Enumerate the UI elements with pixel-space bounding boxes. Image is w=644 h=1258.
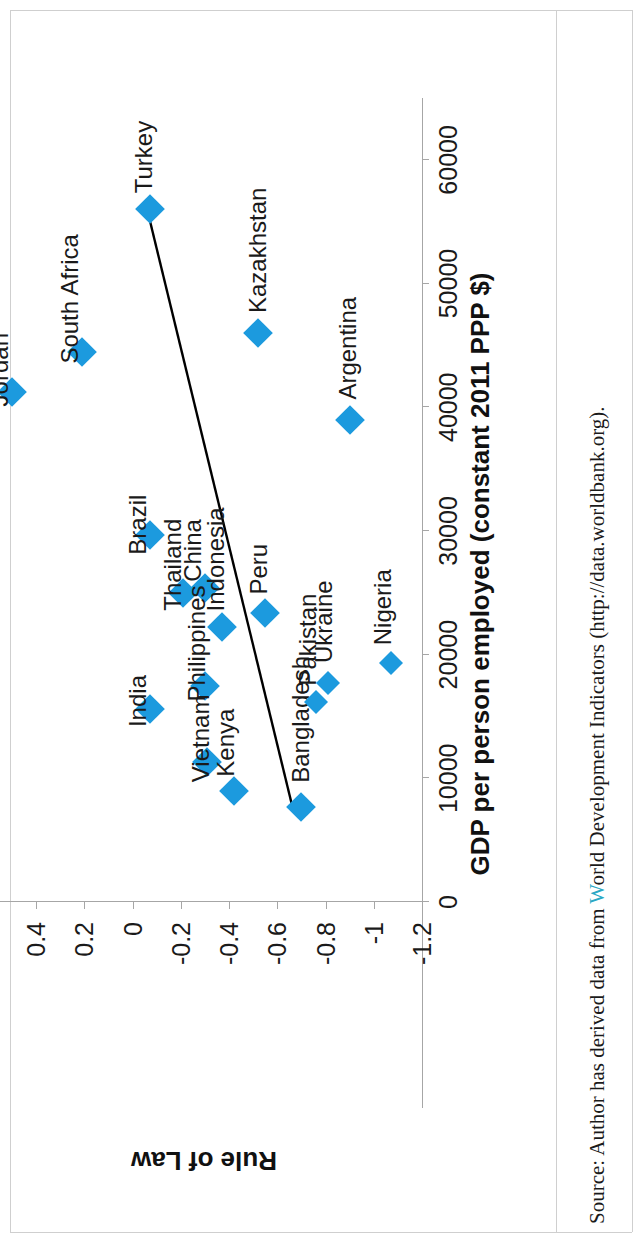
x-axis-tick	[422, 406, 429, 407]
x-axis-tick	[422, 654, 429, 655]
y-axis-tick-label: 0	[118, 922, 147, 936]
source-caption: Source: Author has derived data from Wor…	[585, 34, 610, 1224]
x-axis-tick-label: 50000	[434, 249, 463, 319]
x-axis-tick	[422, 530, 429, 531]
x-axis-tick-label: 10000	[434, 744, 463, 814]
data-point-label: Jordan	[0, 333, 14, 406]
x-axis-tick	[422, 159, 429, 160]
data-point-label: Turkey	[130, 121, 158, 193]
y-axis-tick	[133, 902, 134, 909]
source-caption-rest: orld Development Indicators (http://data…	[585, 406, 609, 885]
x-axis-tick	[422, 283, 429, 284]
y-axis-tick-label: -0.8	[311, 922, 340, 965]
x-axis-tick-label: 60000	[434, 125, 463, 195]
scatter-chart: 01000020000300004000050000600000.60.40.2…	[0, 64, 504, 1194]
x-axis-tick-label: 20000	[434, 620, 463, 690]
data-point-label: Kazakhstan	[244, 188, 272, 313]
y-axis-tick-label: -1	[359, 922, 388, 944]
data-point-label: Argentina	[334, 297, 362, 400]
chart-container: 01000020000300004000050000600000.60.40.2…	[0, 0, 512, 1258]
caption-separator-rule	[556, 10, 557, 1232]
data-point-label: India	[124, 675, 152, 727]
y-axis-tick	[181, 902, 182, 909]
source-caption-prefix: Source: Author has derived data from	[585, 904, 609, 1224]
y-axis-tick	[374, 902, 375, 909]
y-axis-tick	[277, 902, 278, 909]
x-axis-tick-label: 30000	[434, 496, 463, 566]
data-point-label: Ukraine	[310, 580, 338, 663]
x-axis-title: GDP per person employed (constant 2011 P…	[465, 272, 496, 875]
y-axis-tick-label: -0.2	[166, 922, 195, 965]
plot-area: 01000020000300004000050000600000.60.40.2…	[0, 64, 504, 1194]
y-axis-tick-label: -0.6	[263, 922, 292, 965]
source-caption-highlight: W	[585, 885, 609, 903]
figure-page: 01000020000300004000050000600000.60.40.2…	[0, 0, 644, 1258]
y-axis-title: Rule of Law	[131, 1145, 277, 1176]
y-axis-tick	[229, 902, 230, 909]
y-axis-tick	[326, 902, 327, 909]
x-axis-tick	[422, 901, 429, 902]
y-axis-tick	[36, 902, 37, 909]
data-point-label: Nigeria	[369, 569, 397, 645]
x-axis-tick-label: 0	[434, 895, 463, 909]
y-axis-tick-label: -1.2	[408, 922, 437, 965]
data-point-label: Philippines	[183, 585, 211, 701]
data-point-label: Peru	[245, 544, 273, 595]
x-axis-tick-label: 40000	[434, 372, 463, 442]
y-axis-tick-label: 0.6	[0, 922, 3, 957]
page-border-right	[632, 10, 633, 1232]
y-axis-tick-label: 0.2	[70, 922, 99, 957]
data-point-label: Kenya	[212, 709, 240, 777]
y-axis-tick	[422, 902, 423, 909]
x-axis-tick	[422, 777, 429, 778]
y-axis-tick-label: 0.4	[22, 922, 51, 957]
data-point-label: South Africa	[56, 234, 84, 363]
data-point-label: Brazil	[124, 495, 152, 555]
y-axis-tick	[84, 902, 85, 909]
y-axis-tick-label: -0.4	[215, 922, 244, 965]
